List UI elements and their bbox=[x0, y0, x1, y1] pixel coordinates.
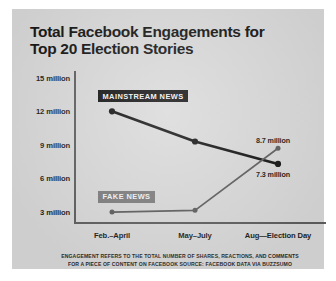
x-axis-tick-label: Feb.–April bbox=[94, 231, 130, 240]
page-title: Total Facebook Engagements for Top 20 El… bbox=[30, 23, 302, 58]
footnote-line-1: ENGAGEMENT REFERS TO THE TOTAL NUMBER OF… bbox=[61, 253, 299, 259]
y-axis-tick-label: 9 million bbox=[18, 140, 70, 149]
x-axis-tick-label: May–July bbox=[178, 231, 211, 240]
data-label-fake-news-end: 8.7 million bbox=[256, 136, 290, 145]
legend-badge-mainstream-news: MAINSTREAM NEWS bbox=[98, 90, 188, 102]
chart-page: Total Facebook Engagements for Top 20 El… bbox=[0, 0, 336, 281]
y-axis-tick-label: 12 million bbox=[18, 107, 70, 116]
data-point bbox=[193, 208, 198, 213]
chart-card: Total Facebook Engagements for Top 20 El… bbox=[12, 9, 324, 269]
footnote-line-2: FOR A PIECE OF CONTENT ON FACEBOOK SOURC… bbox=[68, 261, 292, 267]
legend-badge-fake-news: FAKE NEWS bbox=[98, 191, 155, 203]
y-axis-labels: 15 million12 million9 million6 million3 … bbox=[16, 71, 70, 223]
title-line-2: Top 20 Election Stories bbox=[30, 40, 193, 57]
data-point bbox=[109, 108, 115, 114]
data-point bbox=[192, 138, 198, 144]
data-label-mainstream-news-end: 7.3 million bbox=[256, 170, 290, 179]
title-line-1: Total Facebook Engagements for bbox=[30, 23, 264, 40]
x-axis-line bbox=[74, 222, 326, 224]
footnote: ENGAGEMENT REFERS TO THE TOTAL NUMBER OF… bbox=[34, 253, 326, 269]
data-point bbox=[110, 210, 115, 215]
y-axis-tick-label: 15 million bbox=[18, 73, 70, 82]
data-point bbox=[275, 161, 281, 167]
data-point bbox=[276, 146, 281, 151]
y-axis-tick-label: 3 million bbox=[18, 208, 70, 217]
x-axis-tick-label: Aug—Election Day bbox=[245, 231, 311, 240]
y-axis-tick-label: 6 million bbox=[18, 174, 70, 183]
series-line-mainstream-news bbox=[112, 111, 278, 164]
x-axis-labels: Feb.–AprilMay–JulyAug—Election Day bbox=[74, 231, 326, 243]
